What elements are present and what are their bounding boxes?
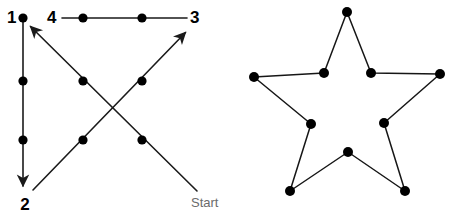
dot-left-lower-mid xyxy=(18,135,27,144)
star-point-left xyxy=(249,72,259,82)
star-point-bottom-right xyxy=(400,186,410,196)
left-diagram-group: 1 2 3 4 Start xyxy=(7,8,219,214)
label-two: 2 xyxy=(20,195,29,214)
dot-left-upper-mid xyxy=(18,76,27,85)
dot-center-upper-left xyxy=(78,76,87,85)
star-inner-lower-right xyxy=(379,118,389,128)
star-point-right xyxy=(435,69,445,79)
star-point-bottom-left xyxy=(285,186,295,196)
dot-center-lower-right xyxy=(137,135,146,144)
dot-center-upper-right xyxy=(137,76,146,85)
star-inner-upper-right xyxy=(366,68,376,78)
label-start: Start xyxy=(191,195,219,210)
figure-panel: 1 2 3 4 Start xyxy=(0,0,451,223)
dot-top-mid-left xyxy=(78,13,87,22)
label-four: 4 xyxy=(47,8,57,27)
label-one: 1 xyxy=(7,8,16,27)
star-inner-bottom xyxy=(343,147,353,157)
stroke-two-to-three xyxy=(33,33,186,191)
star-inner-lower-left xyxy=(306,119,316,129)
star-point-top xyxy=(342,7,352,17)
figure-canvas: 1 2 3 4 Start xyxy=(0,0,451,223)
star-outline-path xyxy=(254,12,440,191)
dot-top-left xyxy=(18,13,27,22)
dot-center-lower-left xyxy=(78,135,87,144)
star-diagram-group xyxy=(249,7,445,196)
dot-top-mid-right xyxy=(137,13,146,22)
star-inner-upper-left xyxy=(319,68,329,78)
label-three: 3 xyxy=(190,8,199,27)
